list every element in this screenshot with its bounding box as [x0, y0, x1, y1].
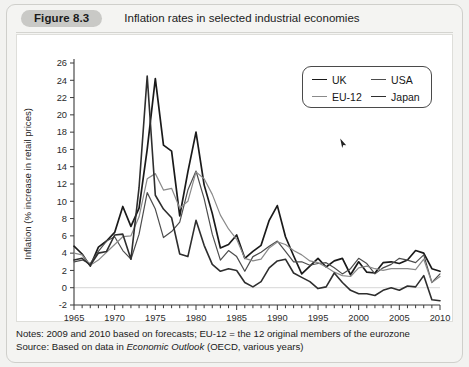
- legend-row: EU-12 Japan: [303, 88, 431, 105]
- figure-notes: Notes: 2009 and 2010 based on forecasts;…: [16, 327, 453, 353]
- svg-text:-2: -2: [59, 300, 67, 310]
- svg-text:Inflation (% increase in retai: Inflation (% increase in retail prices): [22, 108, 33, 260]
- legend-item-usa: USA: [367, 71, 431, 88]
- legend-swatch-japan: [371, 96, 386, 97]
- figure-number-badge: Figure 8.3: [21, 10, 102, 27]
- legend-item-uk: UK: [303, 71, 367, 88]
- figure-card: Figure 8.3 Inflation rates in selected i…: [6, 4, 463, 363]
- svg-text:8: 8: [62, 214, 67, 224]
- legend-row: UK USA: [303, 71, 431, 88]
- svg-text:12: 12: [57, 179, 67, 189]
- legend-label-usa: USA: [391, 74, 413, 86]
- svg-text:1995: 1995: [308, 313, 329, 321]
- svg-text:1965: 1965: [64, 313, 85, 321]
- figure-header: Figure 8.3 Inflation rates in selected i…: [7, 5, 462, 31]
- svg-text:26: 26: [57, 58, 67, 68]
- svg-text:0: 0: [62, 283, 67, 293]
- source-prefix: Source: Based on data in: [16, 341, 126, 352]
- notes-line: Notes: 2009 and 2010 based on forecasts;…: [16, 327, 453, 340]
- svg-text:18: 18: [57, 127, 67, 137]
- svg-text:20: 20: [57, 110, 67, 120]
- legend-swatch-usa: [371, 79, 386, 80]
- header-divider: [16, 32, 453, 33]
- source-suffix: (OECD, various years): [204, 341, 303, 352]
- svg-text:16: 16: [57, 145, 67, 155]
- svg-text:2000: 2000: [348, 313, 369, 321]
- svg-text:1985: 1985: [226, 313, 247, 321]
- source-publication: Economic Outlook: [126, 341, 204, 352]
- svg-text:14: 14: [57, 162, 67, 172]
- svg-text:1990: 1990: [267, 313, 288, 321]
- legend-label-uk: UK: [332, 74, 347, 86]
- legend-label-japan: Japan: [391, 91, 420, 103]
- svg-text:1970: 1970: [104, 313, 125, 321]
- source-line: Source: Based on data in Economic Outloo…: [16, 340, 453, 353]
- chart-legend: UK USA EU-12 Japan: [302, 66, 432, 108]
- legend-swatch-eu12: [312, 96, 327, 97]
- svg-text:1980: 1980: [186, 313, 207, 321]
- svg-text:10: 10: [57, 197, 67, 207]
- legend-swatch-uk: [312, 79, 327, 80]
- legend-item-japan: Japan: [367, 88, 431, 105]
- svg-text:22: 22: [57, 93, 67, 103]
- legend-item-eu12: EU-12: [303, 88, 367, 105]
- svg-text:2005: 2005: [389, 313, 410, 321]
- legend-label-eu12: EU-12: [332, 91, 362, 103]
- svg-text:24: 24: [57, 76, 67, 86]
- svg-text:6: 6: [62, 231, 67, 241]
- svg-text:4: 4: [62, 248, 67, 258]
- chart-plot-panel: -202468101214161820222426196519701975198…: [16, 34, 453, 322]
- svg-text:2: 2: [62, 266, 67, 276]
- figure-title: Inflation rates in selected industrial e…: [124, 12, 359, 24]
- svg-text:1975: 1975: [145, 313, 166, 321]
- svg-text:2010: 2010: [430, 313, 451, 321]
